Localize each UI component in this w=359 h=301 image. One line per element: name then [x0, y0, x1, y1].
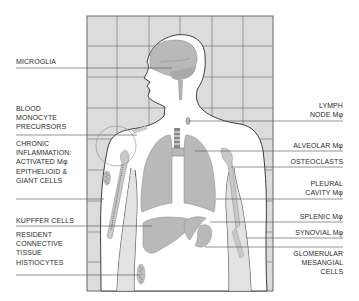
label-glomerular-mesangial: GLOMERULAR MESANGIAL CELLS: [293, 249, 343, 277]
label-blood-monocyte-precursors: BLOOD MONOCYTE PRECURSORS: [16, 104, 66, 132]
label-lymph-node: LYMPH NODE Mφ: [310, 101, 343, 119]
label-splenic: SPLENIC Mφ: [300, 212, 343, 221]
label-kupffer-cells: KUPFFER CELLS: [16, 216, 74, 225]
label-microglia: MICROGLIA: [16, 57, 56, 66]
granuloma: [104, 171, 111, 185]
label-osteoclasts: OSTEOCLASTS: [290, 157, 343, 166]
label-synovial: SYNOVIAL Mφ: [295, 228, 343, 237]
label-pleural-cavity: PLEURAL CAVITY Mφ: [305, 179, 343, 197]
label-resident-histiocytes: RESIDENT CONNECTIVE TISSUE HISTIOCYTES: [16, 230, 64, 267]
histiocyte-patch: [137, 264, 145, 284]
label-chronic-inflammation: CHRONIC INFLAMMATION: ACTIVATED Mφ EPITH…: [16, 139, 71, 185]
label-alveolar: ALVEOLAR Mφ: [293, 141, 343, 150]
